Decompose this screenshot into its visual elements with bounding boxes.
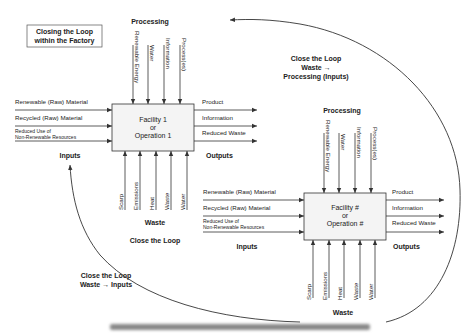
- facility-n-processing-item: Information: [356, 127, 363, 159]
- facility-1-waste-item: Scarp: [117, 193, 124, 210]
- facility-1-input-reduced-2: Non-Renewable Resources: [15, 134, 77, 140]
- facility-n-waste-item: Scarp: [305, 283, 312, 300]
- facility-n-input: Recycled (Raw) Material: [203, 204, 270, 211]
- facility-1-waste-item: Emissions: [132, 182, 139, 210]
- facility-1-waste-item: Water: [179, 194, 186, 210]
- facility-n-outputs-label: Outputs: [393, 243, 420, 251]
- loop-to-processing-line-3: Processing (Inputs): [283, 73, 348, 81]
- facility-1-processing-item: Process(es): [181, 38, 188, 71]
- facility-n-processing-item: Water: [340, 134, 347, 150]
- facility-n-input-reduced-2: Non-Renewable Resources: [203, 224, 265, 230]
- facility-n-input: Renewable (Raw) Material: [203, 188, 276, 195]
- facility-n-waste-item: Waste: [352, 282, 359, 300]
- facility-n-processing-label: Processing: [323, 107, 361, 115]
- facility-n-processing-item: Renewable Energy: [325, 120, 332, 173]
- facility-n-name-line-1: Facility #: [331, 204, 359, 212]
- facility-1-waste-item: Waste: [163, 192, 170, 210]
- facility-1-processing-item: Renewable Energy: [134, 31, 141, 84]
- facility-n-processing-item: Process(es): [372, 127, 379, 160]
- loop-to-processing-line-2: Waste →: [301, 64, 330, 71]
- closed-loop-diagram: Closing the Loop within the Factory Proc…: [0, 0, 465, 335]
- facility-1-output: Product: [202, 98, 224, 105]
- facility-1-waste-item: Heat: [148, 197, 155, 210]
- facility-1-waste-label: Waste: [145, 219, 165, 226]
- facility-1-name-line-1: Facility 1: [139, 116, 167, 124]
- facility-1-name-line-3: Operation 1: [135, 132, 172, 140]
- figure-caption-blurred: [110, 324, 370, 330]
- facility-1-output: Information: [202, 114, 234, 121]
- facility-n-waste-item: Water: [367, 284, 374, 300]
- facility-1-inputs-label: Inputs: [60, 152, 81, 160]
- facility-n-output: Product: [392, 188, 414, 195]
- facility-n-group: Processing Renewable Energy Water Inform…: [203, 107, 444, 316]
- facility-1-name-line-2: or: [150, 124, 157, 131]
- facility-1-input: Recycled (Raw) Material: [15, 114, 82, 121]
- title-line-1: Closing the Loop: [36, 28, 93, 36]
- facility-n-output: Reduced Waste: [392, 219, 436, 226]
- facility-n-name-line-2: or: [342, 212, 349, 219]
- facility-n-name-line-3: Operation #: [327, 220, 364, 228]
- facility-1-output: Reduced Waste: [202, 129, 246, 136]
- facility-n-waste-label: Waste: [333, 309, 353, 316]
- loop-to-processing-line-1: Close the Loop: [291, 55, 342, 63]
- loop-arrow-to-processing-icon: [230, 19, 460, 322]
- facility-n-inputs-label: Inputs: [237, 243, 258, 251]
- loop-to-inputs-line-2: Waste → Inputs: [80, 281, 132, 289]
- facility-1-processing-item: Information: [165, 38, 172, 70]
- facility-n-waste-item: Emissions: [321, 272, 328, 300]
- facility-1-input: Renewable (Raw) Material: [15, 98, 88, 105]
- facility-1-processing-label: Processing: [131, 18, 169, 26]
- facility-n-output: Information: [392, 204, 424, 211]
- facility-n-waste-item: Heat: [336, 287, 343, 300]
- close-the-loop-label: Close the Loop: [130, 237, 181, 245]
- title-box: Closing the Loop within the Factory: [27, 25, 102, 47]
- facility-1-processing-item: Water: [149, 45, 156, 61]
- facility-1-outputs-label: Outputs: [206, 152, 233, 160]
- title-line-2: within the Factory: [34, 37, 95, 45]
